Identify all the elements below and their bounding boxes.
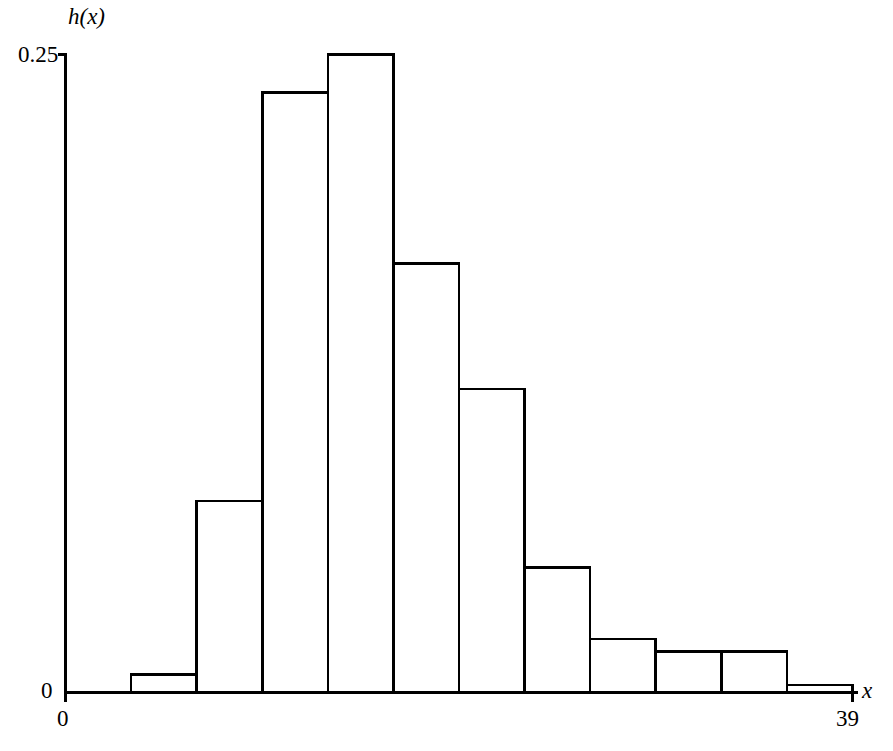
histogram-bar	[721, 652, 787, 693]
y-axis-tick-label-zero: 0	[41, 679, 53, 702]
x-axis-tick-label-zero: 0	[57, 707, 69, 730]
y-axis-label: h(x)	[68, 5, 105, 28]
histogram-bar	[393, 264, 459, 693]
bars-group	[131, 55, 852, 693]
histogram-figure: h(x) x 0.25 0 0 39	[0, 0, 893, 751]
histogram-bar	[131, 675, 197, 693]
histogram-bar	[459, 389, 525, 693]
histogram-plot	[0, 0, 893, 751]
histogram-bar	[590, 639, 656, 693]
histogram-bar	[197, 501, 263, 692]
histogram-bar	[656, 652, 722, 693]
histogram-bar	[328, 55, 394, 693]
x-axis-label: x	[862, 679, 872, 702]
histogram-bar	[525, 567, 591, 692]
y-axis-tick-label-max: 0.25	[18, 43, 58, 66]
histogram-bar	[262, 93, 328, 693]
x-axis-tick-label-max: 39	[836, 707, 859, 730]
